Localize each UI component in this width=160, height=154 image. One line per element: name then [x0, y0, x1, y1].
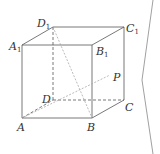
edge-C1B1 — [92, 27, 124, 45]
segment-D1B — [53, 27, 92, 118]
label-A: A — [16, 121, 25, 134]
segment-AP — [22, 75, 110, 118]
solid-edges — [22, 27, 124, 118]
label-C1: C1 — [126, 22, 139, 36]
hidden-edges — [22, 27, 124, 118]
label-B: B — [86, 121, 95, 134]
label-D1: D1 — [36, 17, 50, 31]
label-B1: B1 — [95, 45, 109, 59]
diagonal-segments — [22, 27, 110, 118]
cube-diagram: D1 C1 A1 B1 P D C A B — [0, 0, 160, 154]
label-D: D — [41, 93, 51, 106]
label-C: C — [125, 101, 134, 114]
label-P: P — [112, 71, 121, 84]
right-bracket — [142, 0, 153, 154]
edge-CB — [92, 100, 124, 118]
label-A1: A1 — [8, 40, 21, 54]
